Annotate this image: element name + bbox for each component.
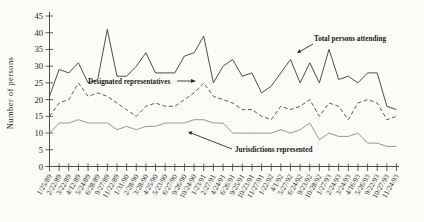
- annotation-jurisdictions-represented: Jurisdictions represented: [235, 146, 312, 154]
- arrowhead-jurisdictions: [188, 131, 192, 135]
- y-tick-label: 45: [34, 11, 43, 21]
- y-axis-title: Number of persons: [5, 56, 15, 129]
- figure: Number of persons 0510152025303540451/25…: [0, 0, 424, 222]
- arrow-up-left-icon: [191, 133, 232, 149]
- line-chart: Number of persons 0510152025303540451/25…: [0, 0, 424, 222]
- y-tick-label: 40: [34, 28, 43, 38]
- y-tick-label: 30: [34, 61, 43, 71]
- annotation-total-persons: Total persons attending: [314, 35, 386, 43]
- series-line-jurisdictions-represented: [50, 120, 397, 147]
- y-tick-label: 20: [34, 95, 43, 105]
- series-lines: [50, 29, 397, 146]
- y-tick-label: 5: [39, 145, 43, 155]
- annotation-designated-representatives: Designated representatives: [88, 78, 170, 86]
- y-tick-label: 0: [39, 162, 43, 172]
- y-tick-label: 15: [34, 111, 43, 121]
- series-line-designated-representatives: [50, 83, 397, 120]
- arrowhead-designated: [191, 79, 196, 83]
- arrow-down-left-icon: [299, 44, 313, 52]
- y-tick-label: 10: [34, 128, 43, 138]
- y-tick-label: 35: [34, 44, 43, 54]
- y-tick-label: 25: [34, 78, 43, 88]
